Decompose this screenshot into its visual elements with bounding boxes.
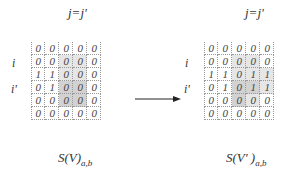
matrix-cell: 0 [87, 68, 101, 81]
matrix-cell: 0 [45, 55, 59, 68]
left-subtitle-sub: a,b [81, 158, 92, 168]
matrix-cell: 0 [218, 55, 232, 68]
matrix-cell: 0 [59, 107, 73, 120]
matrix-cell: 0 [204, 81, 218, 94]
matrix-cell: 0 [87, 107, 101, 120]
matrix-cell: 0 [246, 107, 260, 120]
matrix-cell: 0 [232, 81, 246, 94]
matrix-cell: 0 [218, 94, 232, 107]
matrix-cell: 0 [246, 94, 260, 107]
matrix-cell: 1 [31, 68, 45, 81]
right-subtitle-sub: a,b [255, 158, 266, 168]
matrix-cell: 1 [204, 68, 218, 81]
matrix-cell: 0 [73, 42, 87, 55]
left-row-label-i-prime: i' [11, 82, 17, 97]
matrix-cell: 1 [260, 81, 274, 94]
matrix-cell: 0 [59, 68, 73, 81]
right-row-label-i: i [185, 56, 188, 71]
matrix-cell: 0 [87, 94, 101, 107]
matrix-cell: 1 [45, 81, 59, 94]
matrix-cell: 0 [246, 55, 260, 68]
matrix-cell: 0 [73, 94, 87, 107]
matrix-cell: 0 [45, 42, 59, 55]
matrix-cell: 0 [218, 42, 232, 55]
matrix-cell: 0 [232, 107, 246, 120]
matrix-cell: 0 [260, 42, 274, 55]
matrix-cell: 0 [246, 42, 260, 55]
matrix-cell: 1 [246, 81, 260, 94]
matrix-cell: 0 [232, 55, 246, 68]
matrix-cell: 0 [31, 42, 45, 55]
matrix-cell: 0 [31, 94, 45, 107]
matrix-cell: 0 [87, 42, 101, 55]
matrix-cell: 0 [204, 107, 218, 120]
matrix-cell: 0 [73, 68, 87, 81]
right-subtitle: S(V' )a,b [226, 150, 266, 168]
matrix-cell: 0 [87, 55, 101, 68]
matrix-cell: 0 [59, 42, 73, 55]
right-row-label-i-prime: i' [184, 82, 190, 97]
right-arrow-icon [135, 95, 181, 103]
left-subtitle: S(V)a,b [58, 150, 92, 168]
left-title: j=j' [68, 5, 87, 21]
matrix-cell: 0 [260, 107, 274, 120]
right-subtitle-main: S(V' ) [226, 150, 255, 165]
left-matrix: 000000000011000010000000000000 [31, 42, 101, 122]
matrix-cell: 0 [73, 81, 87, 94]
matrix-cell: 0 [232, 68, 246, 81]
matrix-cell: 0 [204, 55, 218, 68]
matrix-cell: 1 [246, 68, 260, 81]
matrix-cell: 0 [59, 94, 73, 107]
matrix-cell: 0 [31, 81, 45, 94]
left-subtitle-main: S(V) [58, 150, 81, 165]
matrix-cell: 0 [31, 55, 45, 68]
matrix-cell: 0 [31, 107, 45, 120]
matrix-cell: 1 [45, 68, 59, 81]
matrix-cell: 0 [218, 107, 232, 120]
matrix-cell: 1 [260, 68, 274, 81]
matrix-cell: 0 [204, 42, 218, 55]
matrix-cell: 0 [260, 55, 274, 68]
matrix-cell: 1 [218, 81, 232, 94]
matrix-cell: 0 [73, 55, 87, 68]
right-matrix: 000000000011011010110000000000 [204, 42, 274, 122]
left-row-label-i: i [12, 56, 15, 71]
matrix-cell: 0 [45, 107, 59, 120]
matrix-cell: 0 [73, 107, 87, 120]
matrix-cell: 0 [59, 81, 73, 94]
matrix-cell: 0 [45, 94, 59, 107]
matrix-cell: 0 [232, 42, 246, 55]
matrix-cell: 0 [87, 81, 101, 94]
matrix-cell: 1 [218, 68, 232, 81]
matrix-cell: 0 [260, 94, 274, 107]
right-title: j=j' [245, 5, 264, 21]
matrix-cell: 0 [204, 94, 218, 107]
matrix-cell: 0 [59, 55, 73, 68]
matrix-cell: 0 [232, 94, 246, 107]
